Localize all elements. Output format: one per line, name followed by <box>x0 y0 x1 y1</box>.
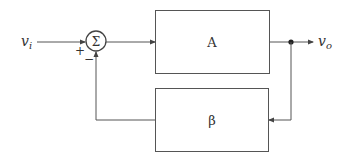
output-label: vo <box>318 33 332 51</box>
minus-sign: − <box>84 52 94 66</box>
summing-junction: Σ <box>86 31 106 51</box>
forward-block-label: A <box>206 35 217 50</box>
input-label: vi <box>21 33 32 51</box>
forward-gain-block: A <box>156 11 270 74</box>
feedback-block: β <box>156 89 269 152</box>
sigma-symbol: Σ <box>92 35 100 49</box>
feedback-diagram: vi Σ + − A vo β <box>0 0 346 159</box>
feedback-return-line <box>96 52 155 120</box>
feedback-block-label: β <box>208 113 216 128</box>
feedback-sense-line <box>269 42 291 120</box>
